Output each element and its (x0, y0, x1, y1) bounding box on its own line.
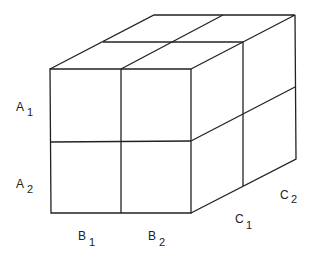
svg-text:2: 2 (159, 236, 165, 248)
svg-text:B: B (148, 229, 156, 243)
svg-text:1: 1 (89, 236, 95, 248)
svg-text:C: C (280, 188, 289, 202)
svg-text:C: C (235, 212, 244, 226)
label-c2: C 2 (280, 188, 297, 205)
svg-text:B: B (78, 229, 86, 243)
cube-svg: A 1 A 2 B 1 B 2 C 1 C 2 (0, 0, 311, 261)
svg-text:2: 2 (27, 183, 33, 195)
svg-text:2: 2 (291, 193, 297, 205)
label-c1: C 1 (235, 212, 252, 231)
label-b2: B 2 (148, 229, 165, 248)
label-a1: A 1 (16, 100, 33, 118)
cube-lines (50, 15, 296, 213)
svg-text:1: 1 (246, 219, 252, 231)
front-mid-horizontal (50, 141, 191, 142)
label-b1: B 1 (78, 229, 95, 248)
cube-diagram: A 1 A 2 B 1 B 2 C 1 C 2 (0, 0, 311, 261)
svg-text:1: 1 (27, 106, 33, 118)
svg-text:A: A (16, 177, 24, 191)
svg-text:A: A (16, 100, 24, 114)
label-a2: A 2 (16, 177, 33, 195)
